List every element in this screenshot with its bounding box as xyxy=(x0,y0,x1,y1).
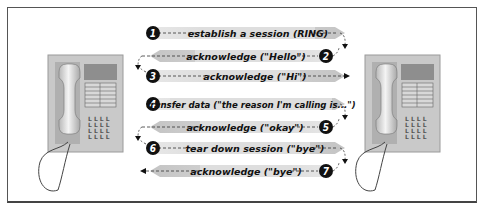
step-3-number: 3 xyxy=(150,71,156,82)
step-7-number: 7 xyxy=(323,166,330,177)
right-phone-icon: L L L L L L L L L L L L L L L L xyxy=(356,55,440,191)
step-6-arrow: 6 tear down session ("bye") xyxy=(140,140,348,164)
step-5-label: acknowledge ("okay") xyxy=(186,122,303,133)
step-2-number: 2 xyxy=(323,51,329,62)
step-5-arrow: 5 acknowledge ("okay") xyxy=(135,119,339,141)
step-2-label: acknowledge ("Hello") xyxy=(186,51,306,62)
step-1-number: 1 xyxy=(150,28,156,39)
step-6-label: tear down session ("bye") xyxy=(186,143,325,154)
left-phone-icon: L L L L L L L L L L L L L L L L xyxy=(39,55,123,191)
step-1-arrow: 1 establish a session (RING) xyxy=(146,26,348,49)
svg-text:L L L L: L L L L xyxy=(88,133,110,140)
step-5-number: 5 xyxy=(323,122,329,133)
step-3-arrow: 3 acknowledge ("Hi") xyxy=(140,68,350,83)
step-7-label: acknowledge ("bye") xyxy=(190,166,302,177)
step-2-arrow: 2 acknowledge ("Hello") xyxy=(135,48,339,70)
diagram-canvas: L L L L L L L L L L L L L L L L L L L L … xyxy=(0,0,485,210)
step-4-arrow: 4 transfer data ("the reason I'm calling… xyxy=(146,97,356,120)
step-1-label: establish a session (RING) xyxy=(188,28,328,39)
step-7-arrow: 7 acknowledge ("bye") xyxy=(140,163,339,178)
step-6-number: 6 xyxy=(150,143,156,154)
step-3-label: acknowledge ("Hi") xyxy=(203,71,306,82)
step-4-label: transfer data ("the reason I'm calling i… xyxy=(146,100,356,110)
svg-text:L L L L: L L L L xyxy=(405,133,427,140)
